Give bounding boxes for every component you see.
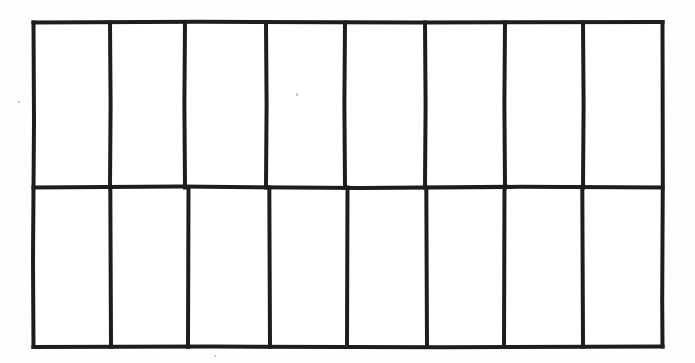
bottom-row-divider-5 <box>426 188 427 347</box>
outer-edge-right <box>662 22 663 347</box>
top-row-divider-4 <box>344 23 345 188</box>
top-row-divider-6 <box>504 23 505 188</box>
bottom-row-divider-6 <box>504 188 505 347</box>
bottom-row-divider-2 <box>188 188 189 347</box>
bottom-row-divider-1 <box>110 188 111 347</box>
outer-edge-top <box>34 22 663 23</box>
bottom-row-divider-4 <box>347 188 348 347</box>
outer-edge-left <box>33 23 34 348</box>
top-row-divider-1 <box>110 23 111 188</box>
scan-speck-top-mid <box>296 93 298 96</box>
scan-speck-bottom-center <box>214 355 216 357</box>
top-row-divider-5 <box>425 23 426 188</box>
bottom-row-divider-3 <box>269 188 270 347</box>
top-row-divider-7 <box>583 23 584 188</box>
grid-diagram <box>0 0 695 363</box>
top-row-divider-3 <box>266 23 267 188</box>
scan-speck-top-left <box>18 101 20 103</box>
bottom-row-divider-7 <box>582 188 583 347</box>
diagram-canvas <box>0 0 695 363</box>
top-row-divider-2 <box>184 23 185 188</box>
